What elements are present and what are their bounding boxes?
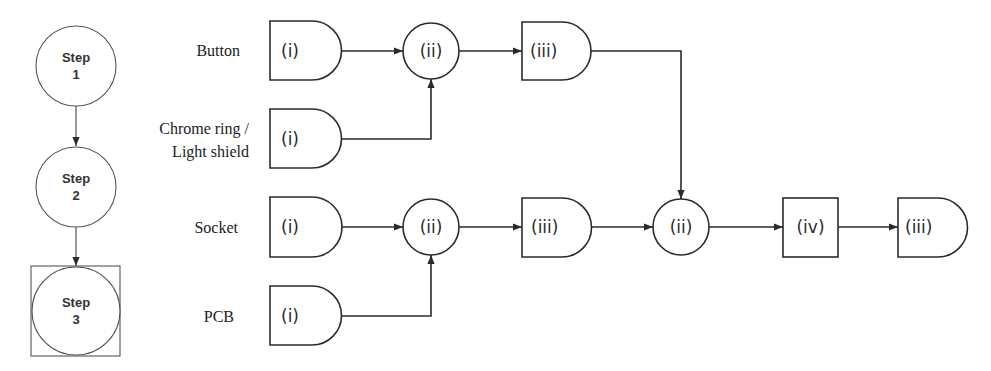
row-label-button: Button [196, 42, 240, 59]
connectors [341, 51, 898, 316]
node-button-i-label: (i) [281, 41, 299, 61]
node-mid-iii-label: (iii) [531, 217, 558, 237]
row-labels: Button Chrome ring / Light shield Socket… [159, 42, 249, 325]
step-2-node: Step 2 [36, 147, 116, 227]
step-1-number: 1 [72, 67, 79, 82]
node-mid-iii: (iii) [522, 198, 592, 257]
node-top-iii-label: (iii) [530, 41, 557, 61]
row-label-light-shield: Light shield [172, 143, 249, 161]
node-final-iv: (iv) [783, 198, 838, 257]
step-3-number: 3 [72, 312, 79, 327]
node-final-iii-label: (iii) [905, 217, 932, 237]
node-socket-i-label: (i) [281, 217, 299, 237]
row-label-pcb: PCB [204, 308, 234, 325]
row-label-chrome-ring: Chrome ring / [159, 120, 249, 138]
node-top-ii: (ii) [403, 23, 459, 79]
arrow-top-iii-to-join-ii [591, 51, 681, 199]
row-label-socket: Socket [194, 219, 238, 236]
node-chrome-i-label: (i) [281, 129, 299, 149]
arrow-pcb-to-mid-ii [341, 255, 431, 316]
node-final-iv-label: (iv) [796, 217, 824, 237]
node-top-ii-label: (ii) [420, 41, 443, 61]
node-final-iii: (iii) [898, 198, 967, 257]
step-1-label: Step [62, 50, 90, 65]
step-3-label: Step [62, 295, 90, 310]
node-join-ii-label: (ii) [670, 217, 693, 237]
node-button-i: (i) [270, 21, 342, 80]
node-join-ii: (ii) [653, 199, 709, 255]
step-2-label: Step [62, 171, 90, 186]
arrow-chrome-to-top-ii [341, 79, 431, 139]
step-3-node: Step 3 [31, 266, 120, 356]
node-mid-ii-label: (ii) [420, 217, 443, 237]
node-top-iii: (iii) [522, 22, 591, 80]
step-1-node: Step 1 [36, 26, 116, 106]
assembly-process-diagram: Step 1 Step 2 Step 3 Button Chrome ring … [0, 0, 991, 371]
node-pcb-i-label: (i) [281, 306, 299, 326]
step-legend: Step 1 Step 2 Step 3 [31, 26, 120, 356]
node-mid-ii: (ii) [403, 199, 459, 255]
step-2-number: 2 [72, 188, 79, 203]
node-socket-i: (i) [270, 197, 342, 257]
node-pcb-i: (i) [270, 286, 342, 345]
node-chrome-i: (i) [270, 109, 342, 168]
